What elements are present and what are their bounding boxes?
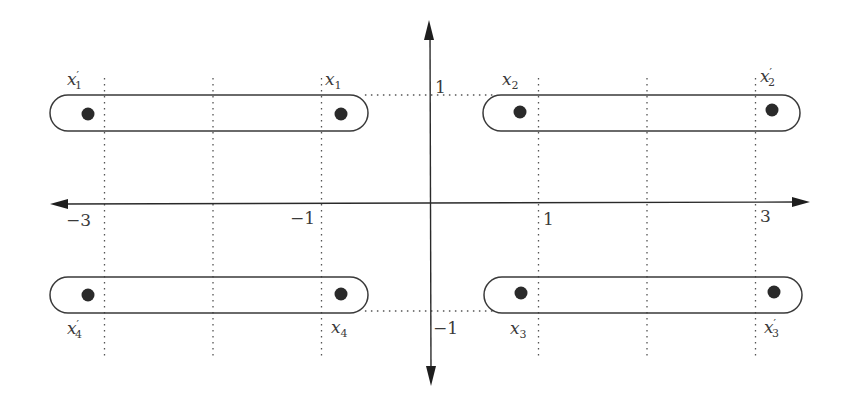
y-axis-down-arrow-icon — [426, 366, 436, 386]
point-label-subscript: 1 — [335, 79, 342, 92]
point-label-x4p: x′4 — [67, 318, 82, 341]
pair-capsule — [484, 277, 802, 313]
x-axis-right-arrow-icon — [792, 197, 810, 207]
x-tick-label: 1 — [543, 209, 554, 229]
point-label-subscript: 4 — [75, 328, 82, 341]
x-axis-line — [62, 202, 796, 204]
point-label-subscript: 2 — [512, 79, 519, 92]
y-tick-label: 1 — [435, 77, 446, 97]
diagram-canvas: −3−1131−1x′1x1x2x′2x3x′3x4x′4 — [0, 0, 846, 402]
x-tick-label: 3 — [760, 206, 771, 226]
point-dot-x1 — [335, 108, 348, 121]
pair-capsule — [50, 277, 368, 313]
x-axis-left-arrow-icon — [50, 199, 68, 209]
point-dot-x3 — [515, 287, 528, 300]
pair-capsule — [50, 95, 368, 131]
axes — [50, 20, 810, 386]
point-label-var: x — [331, 317, 341, 337]
point-label-x1p: x′1 — [67, 69, 82, 92]
point-label-var: x — [510, 318, 520, 338]
pair-capsule — [483, 95, 800, 131]
point-label-var: x — [502, 69, 512, 89]
point-label-subscript: 2 — [768, 76, 775, 89]
point-label-x1: x1 — [325, 69, 342, 92]
point-label-var: x — [325, 69, 335, 89]
x-tick-label: −3 — [66, 210, 91, 230]
point-dot-x4p — [82, 289, 95, 302]
y-tick-label: −1 — [433, 318, 458, 338]
point-label-x4: x4 — [331, 317, 348, 340]
y-axis-up-arrow-icon — [424, 20, 434, 40]
point-label-x2: x2 — [502, 69, 519, 92]
point-dot-x4 — [335, 288, 348, 301]
y-axis-line — [430, 32, 431, 372]
point-dot-x2 — [514, 106, 527, 119]
point-label-subscript: 4 — [341, 327, 348, 340]
point-label-subscript: 3 — [520, 328, 527, 341]
point-label-subscript: 3 — [772, 327, 779, 340]
point-label-x3: x3 — [510, 318, 527, 341]
point-label-x2p: x′2 — [760, 66, 775, 89]
x-tick-label: −1 — [290, 208, 315, 228]
point-label-subscript: 1 — [75, 79, 82, 92]
point-dot-x2p — [766, 104, 779, 117]
point-label-x3p: x′3 — [764, 317, 779, 340]
point-dot-x3p — [768, 286, 781, 299]
point-dot-x1p — [82, 108, 95, 121]
